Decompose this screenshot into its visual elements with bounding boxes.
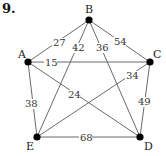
weighted-graph: 27423654152434384968ABCDE — [0, 0, 166, 156]
edge-weight-EC: 34 — [126, 70, 139, 81]
vertex-label-E: E — [26, 140, 34, 153]
edge-weight-AB: 27 — [53, 37, 66, 48]
vertex-label-D: D — [144, 140, 153, 153]
edge-weight-BE: 42 — [72, 42, 85, 53]
edge-weight-AD: 24 — [68, 89, 81, 100]
vertex-B — [85, 16, 92, 23]
vertex-label-B: B — [85, 3, 93, 16]
edge-weight-AE: 38 — [25, 98, 38, 109]
edge-weight-BC: 54 — [114, 36, 127, 47]
edge-weight-CD: 49 — [138, 96, 151, 107]
vertex-D — [136, 133, 143, 140]
edge-weight-ED: 68 — [80, 132, 93, 143]
vertex-label-C: C — [153, 48, 161, 61]
edge-weight-BD: 36 — [96, 42, 109, 53]
edge-weight-AC: 15 — [45, 57, 58, 68]
vertex-label-A: A — [17, 48, 27, 61]
vertex-E — [33, 133, 40, 140]
